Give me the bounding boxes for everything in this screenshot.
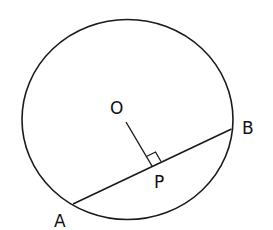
circle — [22, 20, 233, 220]
perpendicular-op — [126, 122, 152, 166]
chord-ab — [73, 129, 232, 204]
label-o: O — [110, 98, 123, 118]
circle-chord-diagram: O P A B — [0, 0, 273, 230]
label-a: A — [54, 211, 66, 230]
label-b: B — [242, 118, 254, 138]
label-p: P — [154, 172, 164, 192]
